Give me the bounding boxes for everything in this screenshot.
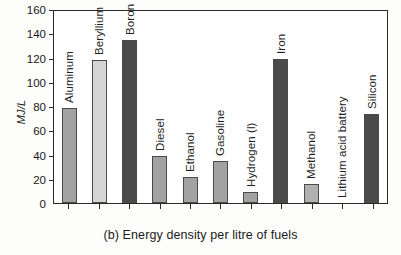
y-axis-tick-label: 60 xyxy=(14,126,46,136)
y-axis-tick-mark xyxy=(49,180,53,181)
bar-category-label: Iron xyxy=(275,34,287,54)
bar-slot: Gasoline xyxy=(205,11,235,203)
x-axis-tick xyxy=(114,204,144,210)
bar-category-label: Gasoline xyxy=(214,110,226,156)
bar-slot: Silicon xyxy=(357,11,387,203)
bar-category-label: Ethanol xyxy=(184,132,196,172)
bar-category-label: Boron xyxy=(124,4,136,35)
bar-slot: Lithium acid battery xyxy=(326,11,356,203)
x-axis-tick xyxy=(175,204,205,210)
bar xyxy=(243,192,258,203)
y-axis-tick-mark xyxy=(49,107,53,108)
y-axis-tick-mark xyxy=(49,34,53,35)
bar xyxy=(213,161,228,203)
x-axis-tick xyxy=(358,204,388,210)
x-axis-tick xyxy=(53,204,83,210)
y-axis-tick-label: 0 xyxy=(14,199,46,209)
bar-slot: Methanol xyxy=(296,11,326,203)
bar-category-label: Aluminum xyxy=(63,51,75,103)
bar xyxy=(92,60,107,203)
bar-slot: Hydrogen (l) xyxy=(236,11,266,203)
bar xyxy=(304,184,319,203)
bar-category-label: Hydrogen (l) xyxy=(245,123,257,187)
bar-category-label: Lithium acid battery xyxy=(336,96,348,198)
y-axis-tick-label: 140 xyxy=(14,29,46,39)
y-axis-tick-label: 20 xyxy=(14,175,46,185)
x-axis-tick xyxy=(83,204,113,210)
bar-category-label: Beryllium xyxy=(93,7,105,55)
y-axis-tick-labels: 020406080100120140160 xyxy=(0,0,46,255)
figure-caption: (b) Energy density per litre of fuels xyxy=(0,228,401,242)
x-axis-tick xyxy=(144,204,174,210)
y-axis-tick-label: 80 xyxy=(14,102,46,112)
bar-category-label: Diesel xyxy=(154,119,166,152)
y-axis-tick-label: 120 xyxy=(14,54,46,64)
x-axis-tick xyxy=(266,204,296,210)
bar-series: AluminumBerylliumBoronDieselEthanolGasol… xyxy=(54,11,387,203)
bar xyxy=(62,108,77,203)
plot-area: AluminumBerylliumBoronDieselEthanolGasol… xyxy=(53,10,388,204)
x-axis-tick xyxy=(297,204,327,210)
bar xyxy=(152,156,167,203)
bar-slot: Beryllium xyxy=(84,11,114,203)
bar-slot: Aluminum xyxy=(54,11,84,203)
bar-slot: Ethanol xyxy=(175,11,205,203)
y-axis-tick-mark xyxy=(49,156,53,157)
x-axis-tick xyxy=(327,204,357,210)
y-axis-tick-label: 100 xyxy=(14,78,46,88)
bar-category-label: Silicon xyxy=(366,75,378,110)
y-axis-tick-label: 160 xyxy=(14,5,46,15)
x-axis-tick xyxy=(205,204,235,210)
bar-category-label: Methanol xyxy=(305,131,317,179)
x-axis-tick xyxy=(236,204,266,210)
bar xyxy=(273,59,288,203)
bar-slot: Boron xyxy=(115,11,145,203)
x-axis-tick-marks xyxy=(53,204,388,210)
y-axis-tick-mark xyxy=(49,83,53,84)
bar xyxy=(183,177,198,203)
y-axis-tick-label: 40 xyxy=(14,151,46,161)
y-axis-tick-mark xyxy=(49,10,53,11)
figure-energy-density-per-litre: MJ/L 020406080100120140160 AluminumBeryl… xyxy=(0,0,401,255)
bar-slot: Diesel xyxy=(145,11,175,203)
y-axis-tick-mark xyxy=(49,59,53,60)
bar-slot: Iron xyxy=(266,11,296,203)
bar xyxy=(122,40,137,203)
bar xyxy=(364,114,379,203)
y-axis-tick-mark xyxy=(49,131,53,132)
